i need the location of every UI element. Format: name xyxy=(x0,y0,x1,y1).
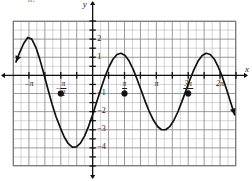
x-tick-label: π2 xyxy=(122,80,128,97)
y-tick-label: −3 xyxy=(97,125,106,133)
y-axis-label: y xyxy=(83,0,87,9)
x-tick-label: −π xyxy=(24,80,33,88)
x-tick-label: 2π xyxy=(216,80,224,88)
y-tick-label: −4 xyxy=(97,143,106,151)
x-axis-label: x xyxy=(245,65,249,74)
y-tick-label: 1 xyxy=(97,53,101,61)
x-tick-label: 3π2 xyxy=(183,80,193,97)
problem-letter-label: d. xyxy=(28,0,36,4)
plot-area: −π−π2π2π3π22π 21−1−2−3−4 x y xyxy=(13,21,236,166)
x-tick-label: π xyxy=(154,80,158,88)
x-tick-label: −π2 xyxy=(55,80,66,97)
y-tick-label: −1 xyxy=(97,89,106,97)
y-tick-label: −2 xyxy=(97,107,106,115)
y-tick-label: 2 xyxy=(97,35,101,43)
graph-figure: d. −π−π2π2π3π22π 21−1−2−3−4 x y xyxy=(0,0,252,181)
